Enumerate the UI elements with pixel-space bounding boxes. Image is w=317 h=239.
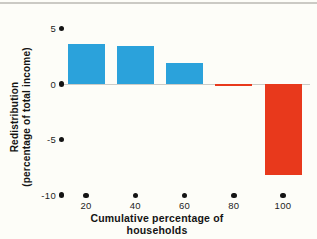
y-tick-dot <box>59 192 65 198</box>
plot-area: 50-5-1020406080100 <box>0 0 317 239</box>
bar-20 <box>68 44 105 84</box>
bar-40 <box>117 46 154 84</box>
x-tick-label: 40 <box>119 200 151 211</box>
x-tick-label: 80 <box>218 200 250 211</box>
y-tick-dot <box>59 81 65 87</box>
y-tick-label: -10 <box>30 190 56 201</box>
x-tick-dot <box>133 193 139 199</box>
bar-60 <box>166 63 203 84</box>
x-tick-label: 100 <box>267 200 299 211</box>
x-tick-dot <box>83 193 89 199</box>
bar-80 <box>215 84 252 86</box>
x-axis-title: Cumulative percentage of households <box>61 212 253 236</box>
y-tick-dot <box>59 26 65 32</box>
bar-100 <box>265 84 302 175</box>
y-tick-label: 5 <box>30 23 56 34</box>
x-tick-label: 20 <box>70 200 102 211</box>
x-tick-dot <box>280 193 286 199</box>
x-tick-label: 60 <box>169 200 201 211</box>
y-tick-label: -5 <box>30 134 56 145</box>
y-tick-label: 0 <box>30 79 56 90</box>
redistribution-bar-chart-figure: Redistribution (percentage of total inco… <box>0 0 317 239</box>
y-tick-dot <box>59 137 65 143</box>
x-tick-dot <box>231 193 237 199</box>
x-tick-dot <box>182 193 188 199</box>
